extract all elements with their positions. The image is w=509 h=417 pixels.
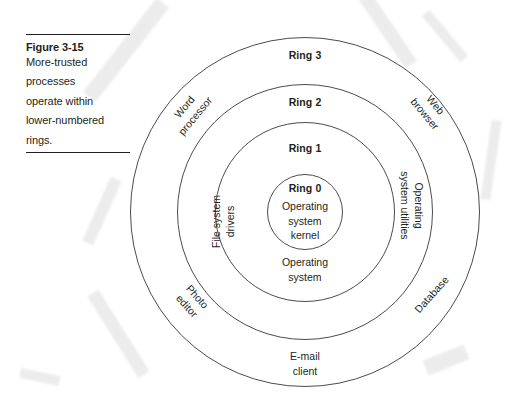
figure-container: Figure 3-15 More-trusted processes opera… — [0, 0, 509, 417]
figure-number: Figure 3-15 — [26, 40, 130, 55]
os-kernel-line-3: kernel — [255, 228, 355, 243]
scan-streak — [88, 290, 150, 378]
os-utilities-label: Operating system utilities — [398, 159, 425, 253]
figure-caption: Figure 3-15 More-trusted processes opera… — [26, 34, 130, 153]
scan-streak — [19, 368, 60, 386]
file-system-drivers-label: File system drivers — [210, 177, 237, 267]
os-kernel-line-1: Operating — [255, 199, 355, 214]
scan-streak — [423, 344, 470, 375]
caption-line-1: More-trusted — [26, 55, 130, 70]
file-system-drivers-line-2: drivers — [223, 177, 237, 267]
ring-0-label: Ring 0 — [255, 181, 355, 195]
caption-line-5: rings. — [26, 133, 130, 148]
scan-streak — [422, 10, 468, 62]
os-utilities-line-1: Operating — [411, 159, 425, 253]
file-system-drivers-line-1: File system — [210, 177, 224, 267]
caption-line-2: processes — [26, 74, 130, 89]
os-utilities-line-2: system utilities — [398, 159, 412, 253]
email-client-line-1: E-mail — [255, 349, 355, 364]
os-kernel-label: Operating system kernel — [255, 199, 355, 243]
operating-system-line-2: system — [255, 270, 355, 285]
scan-streak — [82, 177, 121, 246]
email-client-line-2: client — [255, 364, 355, 379]
caption-top-rule — [26, 34, 130, 35]
operating-system-label: Operating system — [255, 255, 355, 284]
caption-bottom-rule — [26, 152, 130, 153]
scan-streak — [480, 120, 501, 201]
ring-3-label: Ring 3 — [255, 48, 355, 62]
os-kernel-line-2: system — [255, 214, 355, 229]
email-client-label: E-mail client — [255, 349, 355, 378]
operating-system-line-1: Operating — [255, 255, 355, 270]
ring-1-label: Ring 1 — [255, 141, 355, 155]
ring-2-label: Ring 2 — [255, 95, 355, 109]
caption-line-4: lower-numbered — [26, 113, 130, 128]
caption-line-3: operate within — [26, 94, 130, 109]
